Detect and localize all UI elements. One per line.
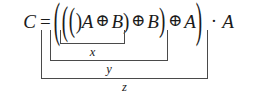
xor-operator-second: ⊕ bbox=[131, 12, 145, 29]
operand-a-second: A bbox=[184, 12, 196, 31]
equation-lhs-variable: C bbox=[23, 12, 36, 31]
operand-a-first: A bbox=[82, 12, 94, 31]
operand-a-third: A bbox=[222, 12, 234, 31]
and-dot-operator: · bbox=[211, 11, 217, 30]
operand-b-first: B bbox=[112, 12, 124, 31]
xor-operator-third: ⊕ bbox=[168, 12, 182, 29]
underbrace-outer bbox=[41, 30, 208, 79]
xor-operator-first: ⊕ bbox=[95, 12, 109, 29]
underbrace-outer-label: z bbox=[41, 81, 208, 94]
equals-sign: = bbox=[40, 12, 51, 31]
equation-figure: C = ( ( ( ) A ⊕ B ) ⊕ B ) ⊕ A ) · A x y … bbox=[0, 0, 257, 102]
operand-b-second: B bbox=[147, 12, 159, 31]
